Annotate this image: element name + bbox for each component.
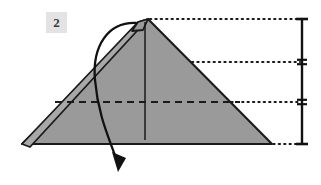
step-number-badge: 2 bbox=[46, 12, 67, 33]
folded-paper-triangle bbox=[22, 19, 272, 144]
origami-step-figure: 2 bbox=[0, 0, 321, 185]
proportion-measure-bracket bbox=[296, 19, 308, 144]
fold-over-arrowhead bbox=[112, 152, 126, 172]
